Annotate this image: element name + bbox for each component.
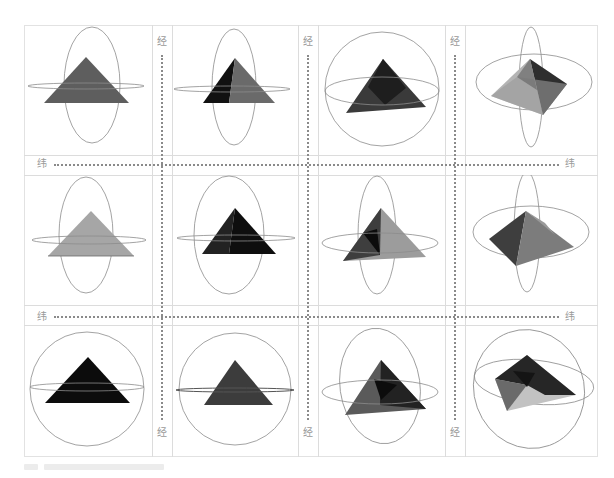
pyramid-tilted-dark-diagram	[318, 325, 445, 457]
latitude-label: 纬	[36, 311, 48, 323]
pyramid-two-face-diagram	[172, 25, 298, 155]
pyramid-front-black-diagram	[172, 175, 298, 305]
longitude-label: 经	[156, 36, 168, 48]
cell-r2c2	[172, 175, 298, 305]
caption-fragment	[44, 464, 164, 470]
grid-line-h	[24, 155, 598, 156]
pyramid-front-light-diagram	[24, 175, 152, 305]
pyramid-tilted-multi-diagram	[318, 175, 445, 305]
cell-r2c3	[318, 175, 445, 305]
longitude-label: 经	[302, 427, 314, 439]
cell-r1c3	[318, 25, 445, 155]
latitude-label: 纬	[36, 158, 48, 170]
latitude-guide	[54, 164, 559, 166]
longitude-label: 经	[449, 36, 461, 48]
longitude-guide	[454, 55, 456, 420]
pyramid-front-diagram	[24, 25, 152, 155]
grid-line-v	[298, 25, 299, 457]
cell-r3c2	[172, 325, 298, 457]
caption-fragment	[24, 464, 38, 470]
latitude-label: 纬	[564, 311, 576, 323]
pyramid-front-dark-diagram	[172, 325, 298, 457]
cell-r2c4	[465, 175, 598, 305]
longitude-label: 经	[449, 427, 461, 439]
grid-line-h	[24, 305, 598, 306]
cell-r1c4	[465, 25, 598, 155]
pyramid-oblique-diagram	[465, 25, 598, 155]
grid-line-v	[152, 25, 153, 457]
latitude-guide	[54, 316, 559, 318]
longitude-guide	[307, 55, 309, 420]
pyramid-rotated-diagram	[465, 175, 598, 305]
cell-r1c1	[24, 25, 152, 155]
figure-caption	[24, 463, 164, 471]
pyramid-front-black-circle-diagram	[24, 325, 152, 457]
pyramid-tilted-diagram	[318, 25, 445, 155]
cell-r3c3	[318, 325, 445, 457]
cell-r3c4	[465, 325, 598, 457]
grid-line-v	[445, 25, 446, 457]
cell-r2c1	[24, 175, 152, 305]
longitude-label: 经	[156, 427, 168, 439]
longitude-guide	[161, 55, 163, 420]
cell-r1c2	[172, 25, 298, 155]
latitude-label: 纬	[564, 158, 576, 170]
pyramid-top-view-diagram	[465, 325, 598, 457]
longitude-label: 经	[302, 36, 314, 48]
cell-r3c1	[24, 325, 152, 457]
